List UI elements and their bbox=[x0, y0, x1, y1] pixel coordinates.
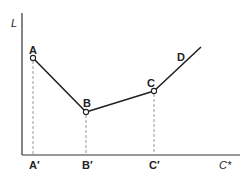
point-b-marker bbox=[83, 109, 88, 114]
tick-label-c-prime: C′ bbox=[149, 159, 160, 171]
point-d-label: D bbox=[177, 51, 185, 63]
point-a-marker bbox=[30, 55, 35, 60]
x-axis-label: C* bbox=[219, 159, 232, 171]
point-b-label: B bbox=[83, 97, 91, 109]
point-c-label: C bbox=[147, 77, 155, 89]
point-a-label: A bbox=[29, 44, 37, 56]
tick-label-b-prime: B′ bbox=[82, 159, 93, 171]
cost-curve bbox=[33, 47, 201, 112]
y-axis-label: L bbox=[11, 17, 17, 29]
point-c-marker bbox=[151, 88, 156, 93]
tick-label-a-prime: A′ bbox=[29, 159, 40, 171]
cost-curve-diagram: L C* A B C D A′ B′ C′ bbox=[0, 0, 251, 179]
